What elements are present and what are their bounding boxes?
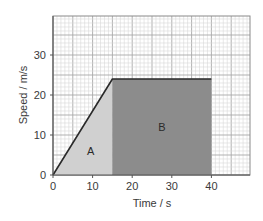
y-tick-label: 10 (34, 129, 46, 141)
region-label-a: A (87, 145, 95, 157)
x-axis-title: Time / s (133, 197, 172, 209)
x-tick-label: 10 (86, 180, 98, 192)
y-tick-label: 0 (40, 169, 46, 181)
x-tick-label: 0 (50, 180, 56, 192)
y-axis-title: Speed / m/s (17, 65, 29, 124)
y-tick-label: 30 (34, 49, 46, 61)
x-tick-label: 40 (205, 180, 217, 192)
region-label-b: B (158, 121, 165, 133)
x-tick-label: 20 (126, 180, 138, 192)
speed-time-chart: AB 0102030400102030 Time / s Speed / m/s (0, 0, 263, 221)
x-tick-label: 30 (166, 180, 178, 192)
y-tick-label: 20 (34, 89, 46, 101)
